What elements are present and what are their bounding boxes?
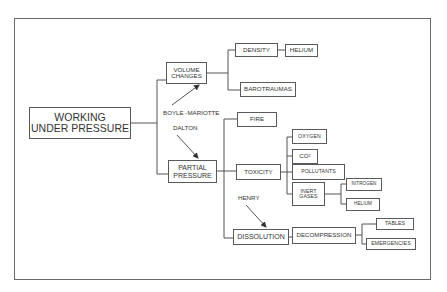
law-boyle-mariotte: BOYLE -MARIOTTE [163, 109, 219, 116]
node-co2: CO2 [292, 149, 318, 164]
node-tables: TABLES [376, 218, 414, 230]
node-toxicity: TOXICITY [236, 164, 281, 180]
node-helium-density: HELIUM [285, 44, 318, 57]
law-henry: HENRY [238, 194, 260, 201]
node-fire: FIRE [237, 112, 277, 127]
node-pollutants: POLLUTANTS [292, 164, 345, 180]
node-decompression: DECOMPRESSION [292, 227, 356, 244]
node-nitrogen: NITROGEN [346, 178, 382, 191]
node-inert-gases: INERT GASES [292, 182, 325, 206]
node-emergencies: EMERGENCIES [366, 238, 416, 250]
node-partial-pressure: PARTIAL PRESSURE [168, 160, 217, 183]
node-barotraumas: BAROTRAUMAS [240, 82, 296, 97]
law-dalton: DALTON [173, 124, 198, 131]
node-density: DENSITY [235, 43, 278, 57]
co2-subscript: 2 [309, 154, 311, 158]
node-volume-changes: VOLUME CHANGES [166, 62, 207, 84]
co2-base: CO [299, 153, 308, 160]
node-helium-inert: HELIUM [346, 198, 380, 211]
root-node-working-under-pressure: WORKING UNDER PRESSURE [29, 107, 131, 139]
node-dissolution: DISSOLUTION [233, 229, 289, 245]
node-oxygen: OXYGEN [292, 129, 327, 144]
